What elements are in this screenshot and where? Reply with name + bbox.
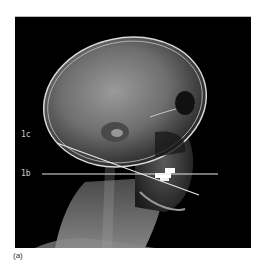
label-1c: 1c — [21, 130, 31, 139]
label-1b: 1b — [21, 169, 31, 178]
skull-xray-graphic — [15, 17, 251, 248]
xray-image: 1c 1b — [15, 16, 251, 248]
figure-caption: (a) — [13, 251, 23, 260]
